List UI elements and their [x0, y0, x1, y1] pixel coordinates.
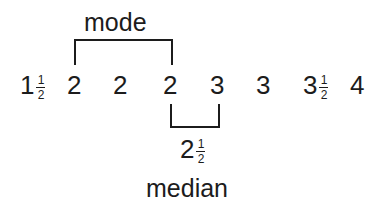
median-value: 2 12 [180, 136, 205, 165]
median-label: median [146, 176, 228, 201]
mode-bracket [74, 39, 173, 65]
value-1: 2 [67, 72, 81, 98]
value-2: 2 [113, 72, 127, 98]
mode-median-diagram: mode 1 12 2 2 2 3 3 3 12 4 2 12 median [0, 0, 387, 212]
value-4: 3 [210, 72, 224, 98]
value-0: 1 12 [20, 72, 45, 101]
value-5: 3 [256, 72, 270, 98]
value-7: 4 [350, 72, 364, 98]
fraction-half: 12 [36, 74, 45, 101]
value-6: 3 12 [303, 72, 328, 101]
fraction-half: 12 [319, 74, 328, 101]
median-bracket [170, 104, 220, 128]
mode-label: mode [84, 10, 147, 35]
fraction-half: 12 [196, 138, 205, 165]
value-3: 2 [163, 72, 177, 98]
